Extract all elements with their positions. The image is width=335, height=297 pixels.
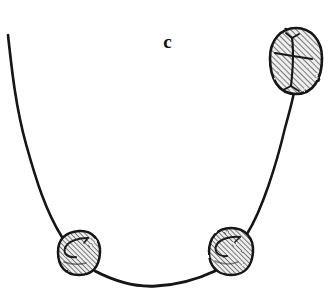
tooth-lower-right [209, 228, 253, 275]
tooth-lower-left [58, 231, 100, 275]
panel-label: c [0, 32, 335, 51]
figure-panel-c: c [0, 0, 335, 297]
